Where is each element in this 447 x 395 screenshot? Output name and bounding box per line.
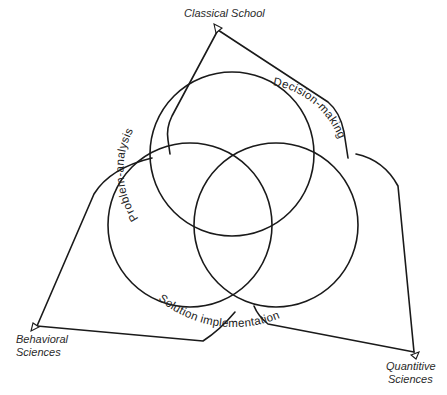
- connector-line-classical-right: [218, 30, 348, 158]
- connector-line-behavioral-upper: [37, 158, 152, 326]
- connector-classical-school: [168, 24, 349, 158]
- source-label-classical-school: Classical School: [184, 7, 265, 19]
- connector-line-classical-left: [168, 30, 219, 154]
- phase-label-solution-implementation: Solution implementation: [157, 292, 281, 329]
- connector-line-quantitive-upper: [356, 154, 414, 352]
- source-label-quantitive-sciences: Quantitive Sciences: [386, 360, 439, 385]
- connector-quantitive-sciences: [254, 154, 419, 359]
- management-theory-diagram: Problem-analysis Decision-making Solutio…: [0, 0, 447, 395]
- arrow-head-quantitive-icon: [411, 352, 419, 359]
- circle-bottom-right: [194, 143, 358, 307]
- phase-label-problem-analysis: Problem-analysis: [113, 126, 140, 224]
- source-label-behavioral-sciences: Behavioral Sciences: [16, 333, 71, 358]
